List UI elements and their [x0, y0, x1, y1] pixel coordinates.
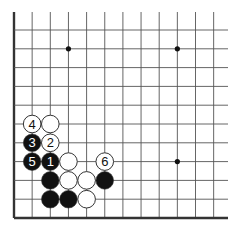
white-stone-6: 6	[96, 153, 114, 171]
black-stone	[42, 172, 60, 190]
star-point-icon	[175, 46, 180, 51]
move-number-label: 1	[47, 154, 54, 169]
star-point-icon	[175, 159, 180, 164]
star-point-icon	[66, 46, 71, 51]
move-number-label: 3	[29, 135, 36, 150]
move-number-label: 2	[47, 135, 54, 150]
white-stone	[42, 115, 60, 133]
go-board: 432516	[0, 0, 238, 230]
black-stone-3: 3	[23, 134, 41, 152]
white-stone-2: 2	[42, 134, 60, 152]
white-stone-icon	[42, 115, 60, 133]
black-stone	[60, 190, 78, 208]
white-stone-icon	[78, 172, 96, 190]
white-stone	[78, 172, 96, 190]
black-stone	[42, 190, 60, 208]
move-number-label: 4	[29, 117, 36, 132]
black-stone-icon	[42, 190, 60, 208]
white-stone-icon	[60, 153, 78, 171]
white-stone-icon	[60, 172, 78, 190]
white-stone-icon	[78, 190, 96, 208]
black-stone	[96, 172, 114, 190]
move-number-label: 5	[29, 154, 36, 169]
white-stone-4: 4	[23, 115, 41, 133]
white-stone	[60, 172, 78, 190]
move-number-label: 6	[101, 154, 108, 169]
black-stone-icon	[60, 190, 78, 208]
black-stone-icon	[42, 172, 60, 190]
black-stone-icon	[96, 172, 114, 190]
black-stone-1: 1	[42, 153, 60, 171]
white-stone	[78, 190, 96, 208]
black-stone-5: 5	[23, 153, 41, 171]
white-stone	[60, 153, 78, 171]
